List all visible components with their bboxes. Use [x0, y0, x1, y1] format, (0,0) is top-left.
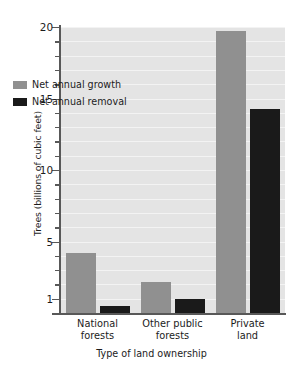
- legend-swatch-icon-removal: [13, 98, 27, 106]
- y-axis-major-tick: [52, 299, 60, 300]
- legend-item-removal: Net annual removal: [13, 95, 127, 109]
- y-axis-minor-tick: [55, 56, 61, 57]
- y-axis-minor-tick: [55, 141, 61, 142]
- legend-label-growth: Net annual growth: [32, 80, 121, 90]
- y-axis-minor-tick: [55, 70, 61, 71]
- y-axis-minor-tick: [55, 227, 61, 228]
- bar-growth: [216, 31, 246, 313]
- y-axis-minor-tick: [55, 41, 61, 42]
- bar-growth: [141, 282, 171, 313]
- legend-swatch-icon-growth: [13, 81, 27, 89]
- y-axis-minor-tick: [55, 284, 61, 285]
- y-axis-tick-label: 10: [13, 165, 53, 175]
- y-axis-major-tick: [52, 170, 60, 171]
- y-axis-tick-label: 1: [13, 294, 53, 304]
- y-axis-minor-tick: [55, 127, 61, 128]
- y-axis-major-tick: [52, 242, 60, 243]
- bar-removal: [250, 109, 280, 313]
- y-axis-minor-tick: [55, 199, 61, 200]
- y-axis-tick-label: 5: [13, 237, 53, 247]
- y-axis-minor-tick: [55, 184, 61, 185]
- y-axis-minor-tick: [55, 270, 61, 271]
- legend-item-growth: Net annual growth: [13, 78, 127, 92]
- legend-label-removal: Net annual removal: [32, 97, 127, 107]
- plot-area: [60, 27, 285, 313]
- y-axis-minor-tick: [55, 213, 61, 214]
- x-axis-tick-label: Privateland: [198, 318, 298, 343]
- y-axis-tick-label: 20: [13, 22, 53, 32]
- gridline: [60, 27, 285, 28]
- gridline: [60, 56, 285, 57]
- x-axis-title: Type of land ownership: [0, 348, 303, 359]
- y-axis-minor-tick: [55, 113, 61, 114]
- bar-chart: Trees (billions of cubic feet) 20151051 …: [0, 0, 303, 373]
- chart-legend: Net annual growth Net annual removal: [13, 78, 127, 112]
- gridline: [60, 41, 285, 42]
- bar-growth: [66, 253, 96, 313]
- y-axis-minor-tick: [55, 256, 61, 257]
- y-axis-major-tick: [52, 27, 60, 28]
- bar-removal: [175, 299, 205, 313]
- bar-removal: [100, 306, 130, 313]
- y-axis-minor-tick: [55, 156, 61, 157]
- gridline: [60, 70, 285, 71]
- x-axis-tick-label-line: Private: [198, 318, 298, 330]
- x-axis-tick-label-line: land: [198, 330, 298, 342]
- x-axis-line: [52, 313, 286, 315]
